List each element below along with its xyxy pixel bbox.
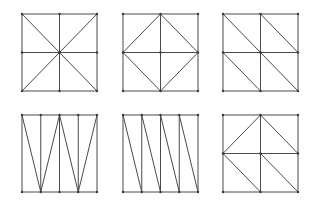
mesh-node: [21, 13, 23, 15]
mesh-node: [222, 152, 224, 154]
panel-diamond: [122, 13, 199, 92]
mesh-edge-diagonal: [41, 115, 60, 192]
mesh-node: [122, 114, 124, 116]
mesh-node: [197, 13, 199, 15]
mesh-node: [21, 191, 23, 193]
mesh-node: [297, 51, 299, 53]
panel-zigzag-strips: [21, 114, 98, 193]
panel-mixed-diagonal: [222, 114, 299, 193]
mesh-edge-diagonal: [261, 14, 299, 53]
mesh-edge-diagonal: [142, 115, 161, 192]
mesh-node: [21, 114, 23, 116]
mesh-node: [122, 90, 124, 92]
mesh-edge-diagonal: [161, 115, 180, 192]
mesh-edge-diagonal: [123, 14, 161, 53]
mesh-node: [159, 191, 161, 193]
panel-regular-diagonal: [222, 13, 299, 92]
mesh-node: [222, 51, 224, 53]
mesh-node: [297, 90, 299, 92]
mesh-node: [141, 191, 143, 193]
mesh-node: [96, 13, 98, 15]
mesh-node: [222, 191, 224, 193]
mesh-node: [259, 51, 261, 53]
mesh-node: [259, 90, 261, 92]
mesh-node: [222, 13, 224, 15]
mesh-edge-diagonal: [123, 53, 161, 92]
mesh-node: [197, 51, 199, 53]
mesh-diagram-canvas: [0, 0, 316, 206]
mesh-node: [178, 114, 180, 116]
mesh-node: [297, 191, 299, 193]
mesh-node: [40, 114, 42, 116]
mesh-node: [297, 114, 299, 116]
mesh-node: [222, 90, 224, 92]
mesh-node: [58, 114, 60, 116]
mesh-node: [96, 51, 98, 53]
mesh-edge-diagonal: [78, 115, 97, 192]
mesh-node: [58, 51, 60, 53]
mesh-node: [259, 191, 261, 193]
mesh-edge-diagonal: [22, 115, 41, 192]
mesh-node: [96, 114, 98, 116]
mesh-node: [297, 152, 299, 154]
mesh-node: [197, 114, 199, 116]
panel-union-jack: [21, 13, 98, 92]
mesh-node: [222, 114, 224, 116]
mesh-node: [40, 191, 42, 193]
mesh-node: [159, 13, 161, 15]
mesh-edge-diagonal: [223, 53, 261, 92]
mesh-node: [141, 114, 143, 116]
mesh-node: [122, 51, 124, 53]
mesh-node: [21, 90, 23, 92]
mesh-node: [159, 90, 161, 92]
mesh-node: [259, 13, 261, 15]
mesh-node: [178, 191, 180, 193]
mesh-node: [58, 13, 60, 15]
mesh-edge-diagonal: [223, 154, 261, 193]
mesh-node: [197, 90, 199, 92]
mesh-node: [197, 191, 199, 193]
mesh-edge-diagonal: [261, 53, 299, 92]
mesh-edge-diagonal: [179, 115, 198, 192]
mesh-node: [96, 90, 98, 92]
panel-parallel-strips: [122, 114, 199, 193]
mesh-edge-diagonal: [60, 115, 79, 192]
mesh-node: [77, 114, 79, 116]
mesh-node: [122, 191, 124, 193]
mesh-edge-diagonal: [123, 115, 142, 192]
mesh-node: [21, 51, 23, 53]
mesh-edge-diagonal: [261, 115, 299, 154]
mesh-edge-diagonal: [223, 115, 261, 154]
mesh-node: [259, 152, 261, 154]
mesh-node: [96, 191, 98, 193]
mesh-node: [259, 114, 261, 116]
mesh-node: [159, 114, 161, 116]
mesh-edge-diagonal: [261, 154, 299, 193]
mesh-node: [58, 191, 60, 193]
mesh-edge-diagonal: [161, 14, 199, 53]
mesh-edge-diagonal: [223, 14, 261, 53]
mesh-node: [58, 90, 60, 92]
mesh-node: [77, 191, 79, 193]
mesh-edge-diagonal: [161, 53, 199, 92]
mesh-node: [159, 51, 161, 53]
mesh-node: [297, 13, 299, 15]
mesh-node: [122, 13, 124, 15]
